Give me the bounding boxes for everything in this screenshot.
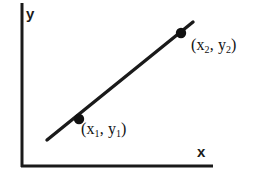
point-1-comma: , <box>100 120 104 137</box>
point-1-x-var: x <box>86 120 94 137</box>
point-1-y-var: y <box>108 120 116 137</box>
point-2-x-subscript: 2 <box>205 44 210 55</box>
point-2-y-var: y <box>218 36 226 53</box>
x-axis-label: x <box>197 144 205 159</box>
point-1-y-subscript: 1 <box>116 128 121 139</box>
data-point-2 <box>176 28 186 38</box>
point-2-label: (x2, y2) <box>191 37 237 53</box>
point-2-y-subscript: 2 <box>226 44 231 55</box>
point-1-paren-close: ) <box>121 120 126 137</box>
point-2-comma: , <box>210 36 214 53</box>
point-1-label: (x1, y1) <box>81 121 127 137</box>
y-axis-label: y <box>26 6 34 21</box>
point-2-x-var: x <box>196 36 204 53</box>
coordinate-plane-figure: y x (x1, y1) (x2, y2) <box>0 0 268 181</box>
point-2-paren-close: ) <box>231 36 236 53</box>
point-1-x-subscript: 1 <box>95 128 100 139</box>
figure-canvas <box>0 0 268 181</box>
